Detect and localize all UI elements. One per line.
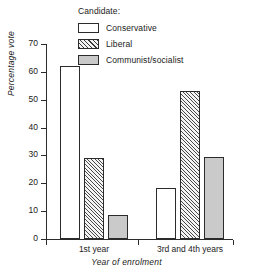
y-tick-50: 50 xyxy=(41,100,46,101)
x-tick-2 xyxy=(233,240,234,245)
y-tick-label-40: 40 xyxy=(29,122,38,132)
y-tick-60: 60 xyxy=(41,72,46,73)
x-tick-1 xyxy=(138,240,139,245)
y-tick-label-30: 30 xyxy=(29,149,38,159)
legend-item-conservative: Conservative xyxy=(78,20,248,35)
y-tick-40: 40 xyxy=(41,128,46,129)
x-tick-0 xyxy=(46,240,47,245)
y-axis-line xyxy=(46,44,47,240)
open-square-icon xyxy=(78,23,99,33)
x-group-label: 1st year xyxy=(79,244,109,254)
y-tick-10: 10 xyxy=(41,211,46,212)
bar xyxy=(156,188,176,240)
plot-area: 010203040506070 1st year3rd and 4th year… xyxy=(46,44,233,240)
legend-title: Candidate: xyxy=(78,6,248,16)
bar xyxy=(60,66,80,239)
y-tick-20: 20 xyxy=(41,183,46,184)
y-tick-70: 70 xyxy=(41,44,46,45)
bar xyxy=(108,215,128,239)
y-tick-label-0: 0 xyxy=(33,233,38,243)
y-tick-label-20: 20 xyxy=(29,177,38,187)
bar-chart-figure: Candidate: Conservative Liberal Communis… xyxy=(0,0,253,275)
x-group-label: 3rd and 4th years xyxy=(157,244,223,254)
y-tick-label-10: 10 xyxy=(29,205,38,215)
bar xyxy=(204,157,224,239)
y-tick-label-50: 50 xyxy=(29,94,38,104)
y-axis-title: Percentage vote xyxy=(6,31,16,96)
legend-label-conservative: Conservative xyxy=(106,23,157,33)
y-tick-label-60: 60 xyxy=(29,66,38,76)
bar xyxy=(84,158,104,239)
x-axis-title: Year of enrolment xyxy=(0,257,253,267)
bar xyxy=(180,91,200,239)
y-tick-label-70: 70 xyxy=(29,38,38,48)
x-axis-line xyxy=(46,239,233,240)
y-tick-30: 30 xyxy=(41,155,46,156)
